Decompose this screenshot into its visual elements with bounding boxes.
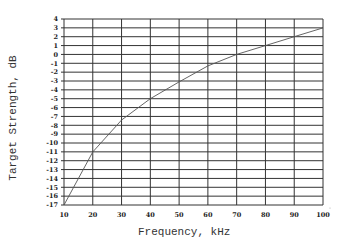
x-tick-label: 80 <box>261 211 271 219</box>
y-tick-label: -15 <box>46 184 58 192</box>
x-tick-label: 10 <box>59 211 69 219</box>
x-tick-label: 100 <box>316 211 330 219</box>
x-tick-label: 90 <box>290 211 300 219</box>
y-tick-label: -9 <box>51 130 59 138</box>
y-tick-label: -7 <box>51 113 58 121</box>
y-tick-label: 3 <box>53 24 58 32</box>
y-tick-label: 1 <box>53 42 58 50</box>
x-tick-label: 60 <box>203 211 213 219</box>
y-tick-label: 0 <box>53 51 58 59</box>
x-tick-label: 20 <box>88 211 98 219</box>
y-tick-label: -17 <box>46 201 58 209</box>
x-tick-label: 30 <box>117 211 127 219</box>
y-tick-label: -16 <box>46 192 58 200</box>
y-tick-label: -13 <box>46 166 58 174</box>
scan-artifact <box>329 207 330 208</box>
y-tick-label: -12 <box>46 157 58 165</box>
y-tick-label: -11 <box>46 148 58 156</box>
y-tick-label: -4 <box>51 86 59 94</box>
x-tick-label: 40 <box>146 211 156 219</box>
y-tick-label: -5 <box>51 95 59 103</box>
y-axis-label: Target Strength, dB <box>7 55 19 180</box>
y-tick-label: -2 <box>51 68 58 76</box>
y-tick-label: -14 <box>46 175 58 183</box>
y-axis-ticks: 43210-1-2-3-4-5-6-7-8-9-10-11-12-13-14-1… <box>46 15 58 209</box>
y-tick-label: -1 <box>51 60 58 68</box>
x-axis-label: Frequency, kHz <box>138 226 230 238</box>
y-tick-label: -8 <box>51 122 59 130</box>
x-tick-label: 70 <box>232 211 242 219</box>
y-tick-label: -6 <box>51 104 59 112</box>
x-axis-ticks: 102030405060708090100 <box>59 211 330 219</box>
y-tick-label: 4 <box>53 15 58 23</box>
y-tick-label: -10 <box>46 139 58 147</box>
y-tick-label: -3 <box>51 77 59 85</box>
x-tick-label: 50 <box>175 211 185 219</box>
y-tick-label: 2 <box>53 33 58 41</box>
grid-lines <box>61 19 323 205</box>
chart-canvas: 43210-1-2-3-4-5-6-7-8-9-10-11-12-13-14-1… <box>0 0 346 245</box>
